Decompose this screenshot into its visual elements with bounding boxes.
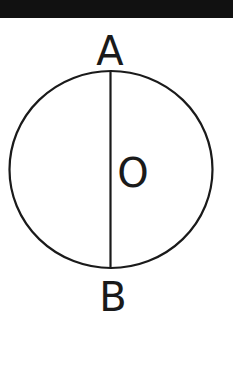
circle-diagram: A O B [0, 0, 233, 375]
label-a: A [96, 28, 124, 74]
label-o: O [117, 150, 148, 196]
label-b: B [99, 274, 126, 320]
